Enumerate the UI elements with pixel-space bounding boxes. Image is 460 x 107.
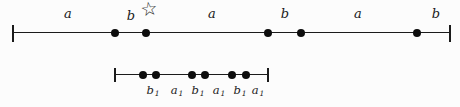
segment-label-a: a xyxy=(208,7,216,20)
interval-diagram: ababab ☆ b1a1b1a1b1a1 xyxy=(0,0,460,107)
segment-label-base: b xyxy=(146,83,153,97)
segment-label-b: b xyxy=(432,7,440,20)
segment-label-a: a xyxy=(354,7,362,20)
segment-label-subscript: 1 xyxy=(260,89,265,98)
segment-label-subscript: 1 xyxy=(200,89,205,98)
interval-point-dot xyxy=(111,29,119,37)
segment-label-base: a xyxy=(171,83,178,97)
segment-label-a: a1 xyxy=(213,85,226,98)
right-endpoint-tick xyxy=(267,68,269,82)
segment-label-a: a xyxy=(64,7,72,20)
right-endpoint-tick xyxy=(449,25,451,42)
segment-label-base: a xyxy=(213,83,220,97)
left-endpoint-tick xyxy=(12,25,14,42)
left-endpoint-tick xyxy=(114,68,116,82)
interval-point-dot xyxy=(242,71,250,79)
interval-point-dot xyxy=(228,71,236,79)
interval-point-dot xyxy=(201,71,209,79)
segment-label-subscript: 1 xyxy=(179,89,184,98)
segment-label-base: a xyxy=(252,83,259,97)
segment-label-base: b xyxy=(233,83,240,97)
segment-label-b: b1 xyxy=(233,85,246,98)
segment-label-subscript: 1 xyxy=(242,89,247,98)
interval-line xyxy=(13,32,450,33)
star-icon: ☆ xyxy=(139,0,159,20)
interval-point-dot xyxy=(188,71,196,79)
segment-label-b: b xyxy=(127,9,135,22)
interval-point-dot xyxy=(152,71,160,79)
segment-label-b: b1 xyxy=(146,85,159,98)
interval-point-dot xyxy=(139,71,147,79)
segment-label-subscript: 1 xyxy=(221,89,226,98)
segment-label-subscript: 1 xyxy=(155,89,160,98)
interval-point-dot xyxy=(297,29,305,37)
segment-label-b: b1 xyxy=(191,85,204,98)
segment-label-a: a1 xyxy=(252,85,265,98)
interval-point-dot xyxy=(142,29,150,37)
interval-point-dot xyxy=(264,29,272,37)
segment-label-base: b xyxy=(191,83,198,97)
interval-point-dot xyxy=(413,29,421,37)
segment-label-a: a1 xyxy=(171,85,184,98)
segment-label-b: b xyxy=(281,7,289,20)
